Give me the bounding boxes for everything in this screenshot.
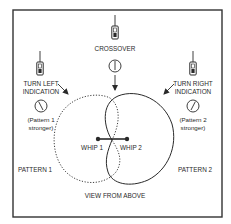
crossover-radio-icon [112, 15, 118, 39]
meter-needle-right-icon [187, 100, 199, 112]
turn-left-radio-icon [37, 51, 43, 75]
meter-needle-center-icon [109, 60, 121, 72]
turn-left-label-line2: INDICATION [23, 88, 60, 95]
turn-right-radio-icon [190, 51, 196, 75]
meter-needle-left-icon [35, 100, 47, 112]
pattern-1-label: PATTERN 1 [18, 166, 53, 173]
turn-left-note-line1: (Pattern 1 [27, 116, 55, 123]
whip-2-dot [125, 137, 129, 141]
crossover-label: CROSSOVER [95, 45, 136, 52]
whip-2-label: WHIP 2 [120, 144, 142, 151]
whip-1-label: WHIP 1 [81, 144, 103, 151]
diagram-frame [13, 10, 222, 217]
pattern-2-label: PATTERN 2 [178, 166, 213, 173]
turn-left-label-line1: TURN LEFT [23, 80, 58, 87]
turn-right-note-line1: (Pattern 2 [179, 116, 207, 123]
turn-right-label-line1: TURN RIGHT [173, 80, 213, 87]
turn-right-label-line2: INDICATION [175, 88, 212, 95]
turn-right-note-line2: stronger) [181, 124, 206, 131]
turn-right-arrow [164, 84, 174, 94]
view-from-above-caption: VIEW FROM ABOVE [85, 192, 145, 199]
turn-left-arrow [58, 84, 68, 94]
antenna-pattern-diagram: CROSSOVER TURN LEFT INDICATION (Pattern … [0, 0, 231, 224]
whip-1-dot [96, 137, 100, 141]
turn-left-note-line2: stronger) [29, 124, 54, 131]
